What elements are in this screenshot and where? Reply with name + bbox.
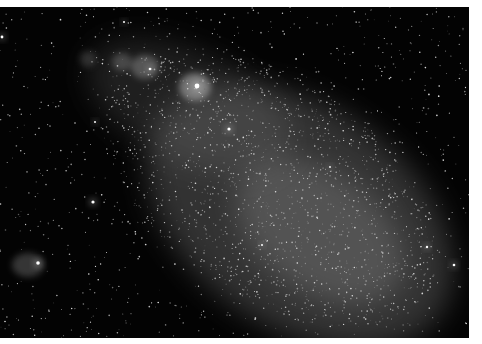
bright-star xyxy=(149,68,152,71)
bright-star xyxy=(329,166,331,168)
galaxy-photo xyxy=(0,7,469,338)
bright-star xyxy=(453,264,456,267)
bright-star xyxy=(426,246,428,248)
nebula-3 xyxy=(112,53,132,71)
bright-star xyxy=(1,36,4,39)
bright-star xyxy=(261,244,263,246)
nebula-2 xyxy=(131,55,159,79)
bright-star xyxy=(36,261,40,265)
bright-star xyxy=(227,127,230,130)
bright-star xyxy=(91,200,94,203)
bright-star xyxy=(195,84,200,89)
bright-star xyxy=(123,21,125,23)
star-field xyxy=(0,7,469,338)
nebula-4 xyxy=(80,51,96,67)
bright-star xyxy=(94,121,96,123)
